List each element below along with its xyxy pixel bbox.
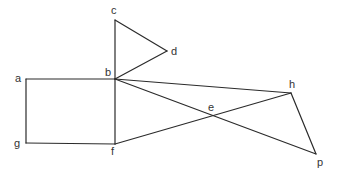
point-label-e: e — [208, 101, 214, 113]
segment-gf — [26, 143, 115, 144]
segment-hp — [291, 93, 316, 154]
point-label-d: d — [171, 45, 177, 57]
edges-group — [26, 20, 316, 154]
segment-bp — [115, 79, 316, 154]
point-label-p: p — [317, 156, 323, 168]
point-label-h: h — [289, 78, 295, 90]
point-label-f: f — [111, 145, 115, 157]
point-label-b: b — [105, 66, 111, 78]
geometry-diagram: abcdefghp — [0, 0, 337, 174]
segment-cd — [115, 20, 167, 51]
segment-bh — [115, 79, 291, 93]
segment-db — [115, 51, 167, 79]
point-label-a: a — [15, 72, 22, 84]
point-label-c: c — [111, 4, 117, 16]
segment-fh — [115, 93, 291, 144]
point-label-g: g — [14, 137, 20, 149]
